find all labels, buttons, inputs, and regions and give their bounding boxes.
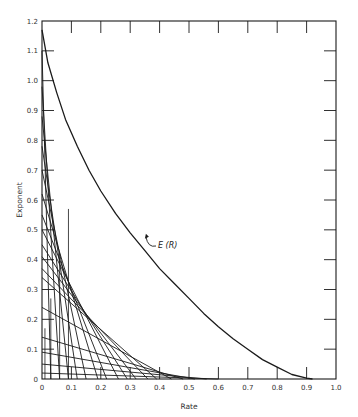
y-axis-title: Exponent (15, 182, 24, 218)
x-tick-label: 0.4 (154, 384, 166, 392)
plot-frame (42, 21, 336, 379)
annotations (145, 234, 156, 247)
y-tick-label: 0.1 (27, 346, 38, 354)
y-tick-label: 0.8 (27, 137, 38, 145)
x-tick-label: 0.1 (66, 384, 77, 392)
tangent-line (42, 269, 148, 379)
y-tick-label: 0.2 (27, 316, 38, 324)
tangent-line (42, 230, 118, 379)
axis-ticks: 00.10.20.30.40.50.60.70.80.91.000.10.20.… (27, 18, 342, 393)
y-tick-label: 1.2 (27, 18, 38, 26)
y-tick-label: 0 (34, 376, 38, 384)
tangent-line (42, 337, 183, 379)
x-tick-label: 0.3 (125, 384, 136, 392)
y-tick-label: 0.6 (27, 197, 39, 205)
tangent-line (42, 215, 107, 379)
x-tick-label: 0.9 (301, 384, 312, 392)
x-tick-label: 0.6 (213, 384, 225, 392)
y-tick-label: 0.5 (27, 226, 38, 234)
y-tick-label: 1.0 (27, 77, 38, 85)
y-tick-label: 0.7 (27, 167, 38, 175)
y-tick-label: 1.1 (27, 47, 38, 55)
curve-label: E (R) (158, 241, 177, 250)
tangent-line (42, 245, 127, 379)
x-tick-label: 1.0 (330, 384, 341, 392)
x-tick-label: 0.7 (242, 384, 253, 392)
x-tick-label: 0.5 (183, 384, 194, 392)
y-tick-label: 0.4 (27, 256, 39, 264)
y-tick-label: 0.3 (27, 286, 38, 294)
y-tick-label: 0.9 (27, 107, 38, 115)
exponent-vs-rate-chart: 00.10.20.30.40.50.60.70.80.91.000.10.20.… (0, 0, 358, 417)
x-tick-label: 0.8 (272, 384, 283, 392)
x-tick-label: 0.2 (95, 384, 106, 392)
e-of-r-curve (42, 30, 313, 379)
tangent-lines (42, 51, 218, 379)
x-tick-label: 0 (40, 384, 44, 392)
x-axis-title: Rate (180, 402, 198, 411)
